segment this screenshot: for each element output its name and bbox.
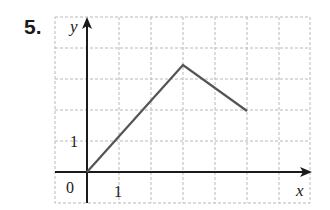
x-tick-label: 1 [114, 183, 122, 200]
origin-label: 0 [66, 179, 74, 196]
graph: y x 0 1 1 [0, 0, 330, 210]
data-line [87, 65, 247, 172]
grid [55, 17, 310, 203]
x-axis-label: x [295, 181, 304, 200]
y-axis-label: y [68, 17, 78, 36]
y-tick-label: 1 [70, 133, 78, 150]
